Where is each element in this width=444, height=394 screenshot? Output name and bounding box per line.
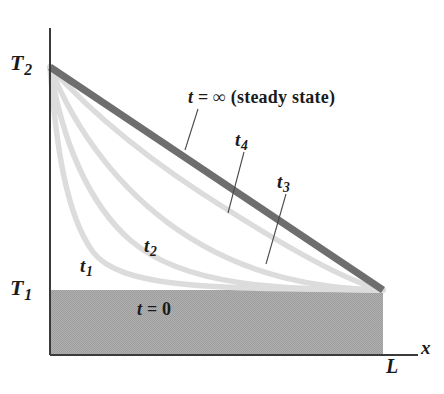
leader-line-steady-state [185,109,198,150]
temperature-distribution-figure: T2 T1 t = ∞ (steady state) t4 t3 t2 t1 t… [0,0,444,394]
x-axis-tick-label-L: L [386,356,398,376]
x-axis-label: x [421,338,431,357]
plot-canvas [0,0,444,394]
annotation-t1: t1 [80,256,93,279]
annotation-t0: t = 0 [137,300,171,318]
annotation-t4: t4 [235,130,248,153]
annotation-steady-state: t = ∞ (steady state) [188,88,335,106]
leader-line-t3 [266,194,286,264]
annotation-t3: t3 [277,172,290,195]
annotation-t2: t2 [144,236,157,259]
leader-line-t4 [228,152,244,213]
y-axis-label-T2: T2 [10,52,32,78]
initial-condition-region [50,290,383,355]
y-axis-label-T1: T1 [10,277,32,303]
